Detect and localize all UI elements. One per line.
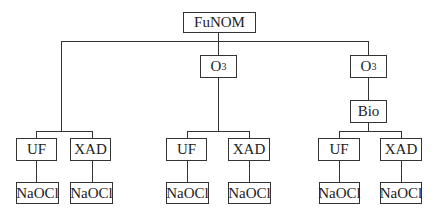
connector	[92, 131, 93, 138]
node-subscript: 3	[221, 61, 226, 72]
node-funom: FuNOM	[183, 12, 256, 33]
node-xad: XAD	[228, 138, 270, 161]
node-label: NaOCl	[318, 185, 361, 202]
connector	[61, 41, 62, 131]
node-o3: O3	[350, 55, 387, 78]
connector	[339, 161, 340, 182]
connector	[218, 41, 219, 55]
connector	[368, 41, 369, 55]
node-naocl: NaOCl	[380, 182, 422, 204]
node-label: O	[361, 58, 372, 75]
connector	[218, 33, 219, 41]
connector	[339, 131, 401, 132]
connector	[401, 161, 402, 182]
node-naocl: NaOCl	[228, 182, 271, 204]
connector	[218, 78, 219, 131]
node-naocl: NaOCl	[319, 182, 360, 204]
node-bio: Bio	[350, 100, 387, 123]
node-label: NaOCl	[166, 185, 209, 202]
connector	[249, 131, 250, 138]
node-label: O	[211, 58, 222, 75]
node-o3: O3	[200, 55, 237, 78]
node-uf: UF	[166, 138, 207, 161]
connector	[36, 131, 92, 132]
node-naocl: NaOCl	[166, 182, 209, 204]
node-xad: XAD	[70, 138, 111, 161]
node-xad: XAD	[380, 138, 422, 161]
node-label: XAD	[233, 141, 266, 158]
connector	[368, 78, 369, 100]
node-label: XAD	[385, 141, 418, 158]
connector	[368, 123, 369, 131]
connector	[36, 131, 37, 138]
node-label: FuNOM	[194, 14, 245, 31]
node-label: NaOCl	[228, 185, 271, 202]
connector	[36, 161, 37, 182]
node-naocl: NaOCl	[70, 182, 113, 204]
connector	[187, 161, 188, 182]
node-naocl: NaOCl	[16, 182, 59, 204]
connector	[61, 41, 369, 42]
connector	[401, 131, 402, 138]
connector	[249, 161, 250, 182]
node-label: Bio	[358, 103, 380, 120]
node-label: UF	[27, 141, 46, 158]
connector	[187, 131, 249, 132]
node-label: XAD	[74, 141, 107, 158]
node-uf: UF	[318, 138, 360, 161]
connector	[92, 161, 93, 182]
node-uf: UF	[16, 138, 57, 161]
connector	[339, 131, 340, 138]
node-label: NaOCl	[380, 185, 423, 202]
node-label: NaOCl	[70, 185, 113, 202]
connector	[187, 131, 188, 138]
node-label: NaOCl	[16, 185, 59, 202]
node-label: UF	[177, 141, 196, 158]
node-label: UF	[329, 141, 348, 158]
node-subscript: 3	[371, 61, 376, 72]
